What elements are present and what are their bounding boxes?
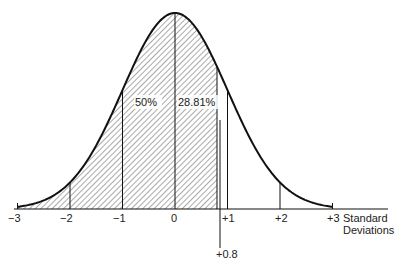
axis-title-line2: Deviations — [343, 224, 395, 236]
tick-label: +2 — [275, 212, 288, 224]
pct-label-left: 50% — [135, 96, 157, 108]
marker-label: +0.8 — [216, 248, 238, 260]
tick-label: +1 — [222, 212, 235, 224]
pct-label-right: 28.81% — [178, 96, 216, 108]
tick-label: −3 — [8, 212, 21, 224]
shaded-area — [18, 13, 218, 209]
tick-label: −2 — [60, 212, 73, 224]
normal-curve-chart: −3 −2 −1 0 +1 +2 +3 Standard Deviations … — [0, 0, 401, 269]
sd-vertical-lines — [18, 13, 333, 209]
axis-title-line1: Standard — [343, 212, 388, 224]
tick-label: 0 — [171, 212, 177, 224]
tick-label: +3 — [327, 212, 340, 224]
tick-label: −1 — [113, 212, 126, 224]
